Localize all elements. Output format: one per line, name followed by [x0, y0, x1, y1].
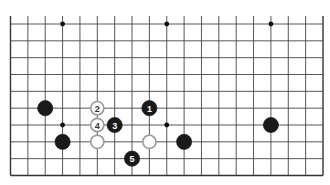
star-point-icon [60, 123, 65, 128]
black-stone: 3 [107, 117, 122, 132]
move-number: 4 [95, 121, 100, 131]
black-stone-icon [55, 134, 70, 149]
black-stone: 1 [142, 101, 157, 116]
black-stone [177, 134, 192, 149]
move-number: 2 [95, 104, 100, 114]
white-stone [143, 135, 156, 148]
move-number: 5 [130, 154, 135, 164]
black-stone [38, 101, 53, 116]
go-board: 21435 [0, 0, 330, 185]
move-number: 3 [112, 121, 117, 131]
black-stone-icon [177, 134, 192, 149]
white-stone [91, 135, 104, 148]
star-point-icon [60, 22, 65, 27]
stones: 21435 [38, 101, 279, 167]
white-stone-icon [91, 135, 104, 148]
board-grid [11, 16, 324, 176]
white-stone: 2 [91, 102, 104, 115]
black-stone-icon [263, 117, 278, 132]
move-number: 1 [147, 104, 152, 114]
black-stone [55, 134, 70, 149]
white-stone-icon [143, 135, 156, 148]
black-stone [263, 117, 278, 132]
star-point-icon [269, 22, 274, 27]
black-stone: 5 [124, 151, 139, 166]
star-point-icon [164, 22, 169, 27]
white-stone: 4 [91, 118, 104, 131]
star-point-icon [164, 123, 169, 128]
black-stone-icon [38, 101, 53, 116]
